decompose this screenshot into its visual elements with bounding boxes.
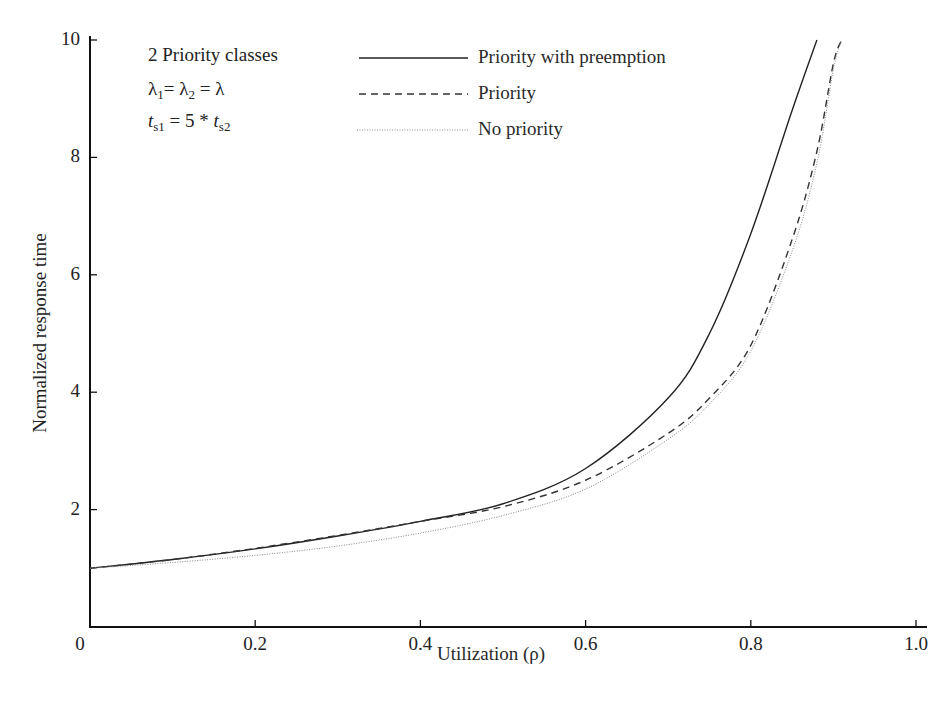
- y-tick-label: 6: [50, 263, 80, 285]
- legend-label-no-priority: No priority: [478, 118, 563, 140]
- x-tick-label: 0.2: [243, 633, 267, 655]
- x-ticks: [255, 620, 916, 627]
- chart-canvas: [0, 0, 950, 711]
- x-tick-label: 0.4: [409, 633, 433, 655]
- y-tick-label: 10: [50, 28, 80, 50]
- legend-label-preemption: Priority with preemption: [478, 46, 666, 68]
- y-tick-label: 4: [50, 380, 80, 402]
- x-axis-label: Utilization (ρ): [437, 643, 545, 665]
- y-axis-label: Normalized response time: [29, 233, 51, 432]
- annotation-title: 2 Priority classes: [148, 44, 278, 66]
- x-tick-label: 0.8: [739, 633, 763, 655]
- x-tick-label: 0: [75, 633, 85, 655]
- annotation-service-time: ts1 = 5 * ts2: [148, 110, 230, 135]
- x-tick-label: 0.6: [574, 633, 598, 655]
- y-tick-label: 8: [50, 145, 80, 167]
- annotation-lambda: λ1= λ2 = λ: [148, 78, 224, 103]
- legend-label-priority: Priority: [478, 82, 536, 104]
- x-tick-label: 1.0: [904, 633, 928, 655]
- y-ticks: [90, 40, 97, 510]
- y-tick-label: 2: [50, 498, 80, 520]
